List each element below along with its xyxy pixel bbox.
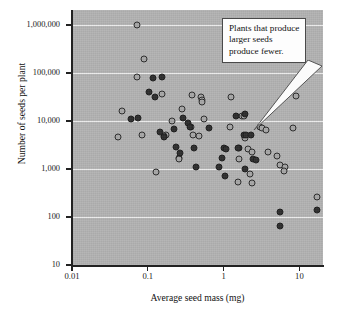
data-point bbox=[134, 74, 141, 81]
data-point bbox=[171, 126, 178, 133]
y-tick-label: 1,000,000 bbox=[2, 21, 60, 29]
data-point bbox=[223, 146, 230, 153]
x-axis-line bbox=[71, 265, 324, 267]
y-tick bbox=[66, 168, 72, 169]
seed-mass-scatter-figure: 1,000,000100,00010,0001,000100100.010.11… bbox=[0, 0, 337, 314]
data-point bbox=[159, 91, 166, 98]
data-point bbox=[222, 173, 229, 180]
data-point bbox=[265, 148, 272, 155]
data-point bbox=[195, 133, 202, 140]
data-point bbox=[186, 123, 193, 130]
data-point bbox=[141, 55, 148, 62]
data-point bbox=[235, 145, 242, 152]
data-point bbox=[313, 194, 320, 201]
data-point bbox=[134, 22, 141, 29]
data-point bbox=[253, 156, 260, 163]
data-point bbox=[227, 93, 234, 100]
data-point bbox=[241, 166, 248, 173]
y-tick-label: 100 bbox=[2, 213, 60, 221]
data-point bbox=[188, 92, 195, 99]
data-point bbox=[175, 156, 182, 163]
data-point bbox=[248, 132, 255, 139]
data-point bbox=[169, 118, 176, 125]
x-tick-label: 1 bbox=[204, 272, 244, 281]
data-point bbox=[150, 75, 157, 82]
y-tick bbox=[66, 72, 72, 73]
data-point bbox=[281, 168, 288, 175]
data-point bbox=[191, 145, 198, 152]
callout-pointer-icon bbox=[246, 60, 326, 132]
data-point bbox=[248, 180, 255, 187]
data-point bbox=[161, 133, 168, 140]
data-point bbox=[192, 164, 199, 171]
data-point bbox=[139, 131, 146, 138]
y-axis-line bbox=[71, 10, 73, 266]
y-tick-label: 1,000 bbox=[2, 165, 60, 173]
data-point bbox=[127, 116, 134, 123]
data-point bbox=[200, 116, 207, 123]
y-tick bbox=[66, 24, 72, 25]
data-point bbox=[218, 154, 225, 161]
data-point bbox=[152, 94, 159, 101]
data-point bbox=[177, 149, 184, 156]
data-point bbox=[246, 171, 253, 178]
y-tick-label: 10,000 bbox=[2, 117, 60, 125]
data-point bbox=[313, 206, 320, 213]
data-point bbox=[226, 124, 233, 131]
data-point bbox=[178, 105, 185, 112]
data-point bbox=[153, 169, 160, 176]
data-point bbox=[235, 178, 242, 185]
y-axis-title: Number of seeds per plant bbox=[16, 39, 27, 189]
data-point bbox=[277, 223, 284, 230]
data-point bbox=[277, 208, 284, 215]
y-tick-label: 10 bbox=[2, 261, 60, 269]
x-tick-label: 10 bbox=[279, 272, 319, 281]
annotation-callout: Plants that produce larger seeds produce… bbox=[222, 18, 306, 63]
y-tick bbox=[66, 216, 72, 217]
data-point bbox=[159, 74, 166, 81]
y-tick bbox=[66, 120, 72, 121]
data-point bbox=[236, 156, 243, 163]
data-point bbox=[135, 114, 142, 121]
data-point bbox=[119, 108, 126, 115]
data-point bbox=[232, 112, 239, 119]
data-point bbox=[198, 98, 205, 105]
data-point bbox=[216, 163, 223, 170]
gridline bbox=[72, 217, 323, 218]
data-point bbox=[114, 134, 121, 141]
data-point bbox=[206, 124, 213, 131]
x-tick-label: 0.1 bbox=[128, 272, 168, 281]
data-point bbox=[249, 148, 256, 155]
data-point bbox=[274, 152, 281, 159]
y-tick-label: 100,000 bbox=[2, 69, 60, 77]
x-tick-label: 0.01 bbox=[52, 272, 92, 281]
x-axis-title: Average seed mass (mg) bbox=[72, 292, 323, 303]
